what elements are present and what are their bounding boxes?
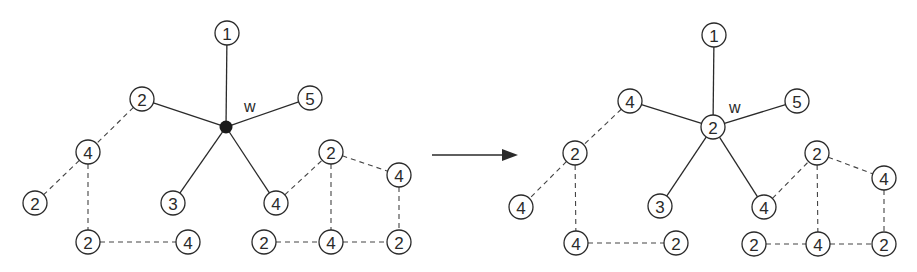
node-label: 2	[570, 145, 579, 164]
hub-vertex-w	[220, 121, 233, 134]
dashed-edge	[575, 165, 576, 231]
graph-node: 4	[564, 231, 588, 255]
node-label: 2	[83, 234, 92, 253]
node-label: 2	[879, 236, 888, 255]
node-label: 4	[394, 167, 403, 186]
node-label: 3	[168, 195, 177, 214]
panel-after-nodes: 2w14534244224242	[509, 23, 896, 256]
dashed-edge	[44, 160, 80, 194]
dashed-edge	[97, 107, 134, 143]
node-label: 4	[759, 199, 768, 218]
node-label: 2	[812, 145, 821, 164]
panel-before-nodes: w12534422424242	[23, 21, 411, 254]
solid-edge	[229, 132, 269, 193]
solid-edge	[641, 105, 701, 124]
graph-node: 2	[130, 87, 154, 111]
transformation-arrow	[432, 149, 518, 161]
solid-edge	[667, 137, 707, 196]
dashed-edge	[817, 165, 818, 232]
node-label: 4	[326, 234, 335, 253]
graph-node: 4	[264, 191, 288, 215]
node-label: 4	[879, 170, 888, 189]
dashed-edge	[342, 156, 387, 171]
dashed-edge	[584, 109, 622, 145]
dashed-edge	[285, 160, 322, 195]
dashed-edge	[529, 161, 566, 198]
graph-node: 4	[176, 230, 200, 254]
graph-node: 3	[161, 191, 185, 215]
solid-edge	[719, 137, 757, 197]
graph-node: 4	[806, 232, 830, 256]
nodes-layer: w125344224242422w14534244224242	[23, 21, 896, 256]
graph-node: 2	[23, 191, 47, 215]
diagram-svg: w125344224242422w14534244224242	[0, 0, 917, 272]
graph-node: 1	[215, 21, 239, 45]
node-label: 4	[625, 93, 634, 112]
graph-node: 4	[509, 195, 533, 219]
dashed-edge	[828, 157, 873, 174]
node-label: 2	[671, 235, 680, 254]
graph-node: 2	[805, 141, 829, 165]
graph-node: 2	[872, 232, 896, 256]
graph-node: 2	[563, 141, 587, 165]
dashed-edge	[772, 162, 808, 199]
node-label: 4	[571, 235, 580, 254]
solid-edge	[153, 103, 220, 125]
solid-edge	[713, 47, 714, 115]
arrow-head-icon	[502, 149, 518, 161]
graph-node: 3	[648, 194, 672, 218]
graph-node: 2	[387, 230, 411, 254]
node-label: 2	[259, 234, 268, 253]
hub-name-label: w	[728, 99, 741, 116]
node-label: 4	[83, 144, 92, 163]
node-label: 2	[394, 234, 403, 253]
node-label: 2	[326, 144, 335, 163]
graph-node: 4	[872, 166, 896, 190]
solid-edge	[232, 102, 299, 125]
node-label: 2	[708, 119, 717, 138]
node-label: 5	[792, 93, 801, 112]
node-label: 2	[749, 236, 758, 255]
node-label: 2	[30, 195, 39, 214]
graph-node: 5	[298, 86, 322, 110]
graph-node: 4	[752, 195, 776, 219]
graph-node: 4	[618, 89, 642, 113]
graph-node: 5	[785, 89, 809, 113]
node-label: 5	[305, 90, 314, 109]
hub-vertex-w: 2	[701, 115, 725, 139]
solid-edge	[180, 132, 223, 193]
graph-node: 4	[319, 230, 343, 254]
solid-edge	[226, 45, 227, 121]
node-label: 4	[516, 199, 525, 218]
node-label: 1	[222, 25, 231, 44]
hub-name-label: w	[243, 98, 256, 115]
graph-node: 1	[702, 23, 726, 47]
graph-node: 4	[387, 163, 411, 187]
graph-node: 2	[76, 230, 100, 254]
graph-node: 2	[664, 231, 688, 255]
graph-transformation-diagram: w125344224242422w14534244224242	[0, 0, 917, 272]
graph-node: 2	[742, 232, 766, 256]
node-label: 4	[813, 236, 822, 255]
graph-node: 2	[319, 140, 343, 164]
node-label: 4	[271, 195, 280, 214]
node-label: 3	[655, 198, 664, 217]
node-label: 2	[137, 91, 146, 110]
graph-node: 4	[76, 140, 100, 164]
node-label: 1	[709, 27, 718, 46]
graph-node: 2	[252, 230, 276, 254]
node-label: 4	[183, 234, 192, 253]
